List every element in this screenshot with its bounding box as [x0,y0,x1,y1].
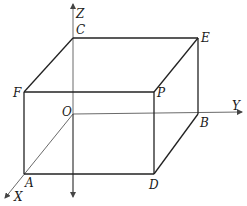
label-O: O [62,105,72,119]
label-A: A [24,176,34,190]
label-C: C [76,23,85,37]
label-F: F [12,86,22,100]
label-D: D [148,178,159,192]
box-diagram: Z C E F P O Y B A D X [0,0,247,206]
label-B: B [199,116,209,130]
label-E: E [200,31,210,45]
edge-EP [154,38,198,92]
label-X: X [13,190,23,204]
label-Z: Z [75,7,85,21]
y-axis [73,112,242,114]
label-Y: Y [232,99,241,113]
edge-BD [154,114,198,174]
label-P: P [156,86,166,100]
edge-CF [24,38,73,92]
x-axis [5,114,73,198]
